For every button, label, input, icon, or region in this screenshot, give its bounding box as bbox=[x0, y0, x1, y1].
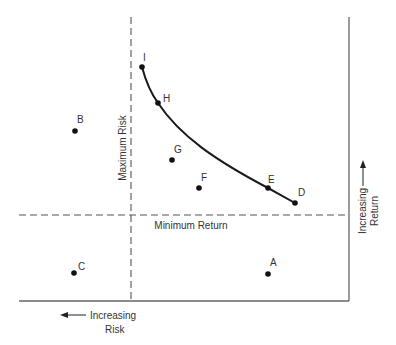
point-label-A: A bbox=[270, 257, 277, 268]
increasing-return-label-line1: Increasing bbox=[357, 188, 368, 234]
point-F: F bbox=[196, 172, 207, 191]
increasing-risk-indicator: Increasing Risk bbox=[60, 310, 136, 335]
point-E: E bbox=[265, 174, 275, 191]
point-label-C: C bbox=[78, 261, 85, 272]
increasing-risk-label-line2: Risk bbox=[105, 324, 125, 335]
risk-return-diagram: A B C D E F G H I Maximum Risk Minimum R… bbox=[0, 0, 396, 345]
point-label-E: E bbox=[268, 174, 275, 185]
arrow-left-icon bbox=[60, 312, 68, 318]
minimum-return-label: Minimum Return bbox=[154, 220, 227, 231]
increasing-return-indicator: Increasing Return bbox=[357, 160, 380, 234]
point-D: D bbox=[292, 187, 305, 206]
arrow-up-icon bbox=[360, 160, 366, 168]
increasing-return-label-line2: Return bbox=[369, 196, 380, 226]
point-label-D: D bbox=[298, 187, 305, 198]
point-label-G: G bbox=[174, 144, 182, 155]
point-label-H: H bbox=[163, 93, 170, 104]
increasing-risk-label-line1: Increasing bbox=[90, 310, 136, 321]
point-B: B bbox=[72, 114, 84, 134]
point-C: C bbox=[71, 261, 85, 276]
maximum-risk-label: Maximum Risk bbox=[117, 114, 128, 181]
point-label-B: B bbox=[77, 114, 84, 125]
point-label-F: F bbox=[201, 172, 207, 183]
point-A: A bbox=[265, 257, 277, 277]
point-I: I bbox=[139, 52, 146, 70]
point-label-I: I bbox=[143, 52, 146, 63]
point-G: G bbox=[169, 144, 182, 163]
point-H: H bbox=[155, 93, 170, 106]
